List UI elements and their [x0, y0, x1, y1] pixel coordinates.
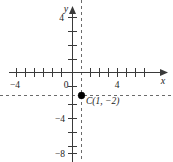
y-tick-label-neg8: −8: [55, 149, 65, 159]
figure-labels-layer: −4 0 4 4 −4 −8 x y C(1, −2): [0, 0, 173, 162]
y-tick-label-four: 4: [59, 13, 64, 23]
x-axis-label: x: [160, 75, 166, 86]
x-tick-label-zero: 0: [64, 80, 69, 90]
point-c-label: C(1, −2): [86, 96, 119, 107]
x-tick-label-four: 4: [115, 80, 120, 90]
x-tick-label-neg4: −4: [10, 80, 20, 90]
y-tick-label-neg4: −4: [55, 114, 65, 124]
y-axis-label: y: [63, 3, 69, 14]
coordinate-plane-figure: −4 0 4 4 −4 −8 x y C(1, −2): [0, 0, 173, 162]
